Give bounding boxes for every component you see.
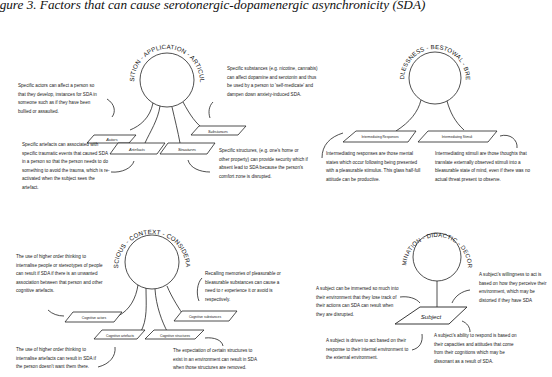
note-cognitive-substances: Recalling memories of pleasurable or ble…: [205, 270, 290, 304]
note-subject-willingness: A subject's willingness to act is based …: [479, 271, 547, 305]
ring-label-3: CONSCIOUS - CONTEXT - CONSIDERATION: [0, 0, 192, 268]
box-label-cognitive-artefacts: Cognitive artefacts: [106, 334, 134, 338]
note-cognitive-artefacts: The use of higher order thinking to inte…: [16, 346, 102, 372]
ring-label-1: ACQUISITION - APPLICATION - ARTICULATION: [0, 0, 206, 83]
note-cognitive-actors: The use of higher order thinking to inte…: [16, 253, 106, 296]
head-circle: [409, 52, 461, 104]
box-label-intermediating-stimuli: Intermediating Stimuli: [442, 135, 473, 139]
note-artefacts: Specific artefacts can associated with s…: [22, 141, 112, 192]
box-label-cognitive-substances: Cognitive substances: [189, 315, 222, 319]
box-label-artefacts: Artefacts: [128, 147, 145, 152]
box-label-cognitive-actors: Cognitive actors: [82, 316, 107, 320]
note-subject-driven: A subject is driven to act based on thei…: [326, 337, 412, 363]
note-subject-immersed: A subject can be immersed so much into t…: [316, 285, 400, 319]
note-subject-ability: A subject's ability to respond is based …: [434, 332, 524, 366]
box-label-subject: Subject: [421, 313, 442, 320]
head-circle: [140, 53, 194, 107]
note-cognitive-structures: The expectation of certain structures to…: [173, 347, 263, 373]
box-label-intermediating-responses: Intermediating Responses: [361, 135, 398, 139]
note-intermediating-responses: Intermediating responses are those menta…: [326, 150, 424, 184]
note-substances: Specific substances (e.g. nicotine, cann…: [227, 65, 322, 99]
box-label-structures: Structures: [178, 147, 196, 152]
box-label-substances: Substances: [208, 130, 228, 134]
note-structures: Specific structures, (e.g. one's home or…: [219, 147, 309, 181]
note-actors: Specific actors can affect a person so t…: [18, 82, 100, 116]
note-intermediating-stimuli: Intermediating stimuli are those thought…: [435, 150, 530, 184]
box-label-cognitive-structures: Cognitive structures: [160, 334, 190, 338]
head-circle: [125, 235, 179, 289]
